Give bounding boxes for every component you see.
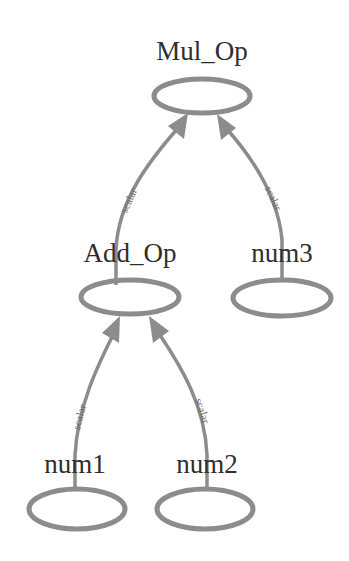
edge-label: scalar [70,403,88,431]
node-num2[interactable]: num2 [157,449,253,529]
node-ellipse[interactable] [233,280,331,316]
edge-label: scalar [263,184,285,213]
node-label: Mul_Op [156,36,248,66]
node-ellipse[interactable] [81,280,179,314]
node-ellipse[interactable] [154,79,250,113]
node-ellipse[interactable] [157,489,253,529]
node-ellipse[interactable] [29,489,125,529]
node-mul-op[interactable]: Mul_Op [154,36,250,113]
node-add-op[interactable]: Add_Op [81,238,179,314]
node-num1[interactable]: num1 [29,449,125,529]
node-label: num3 [251,238,313,268]
edge-label: scalar [118,186,140,215]
node-label: Add_Op [84,238,177,268]
node-label: num2 [176,449,238,479]
edge-label: scalar [193,397,212,425]
node-label: num1 [44,449,106,479]
arrowhead-icon [149,316,169,343]
expression-tree-diagram: scalar scalar scalar scalar Mul_Op Add_O… [0,0,349,561]
